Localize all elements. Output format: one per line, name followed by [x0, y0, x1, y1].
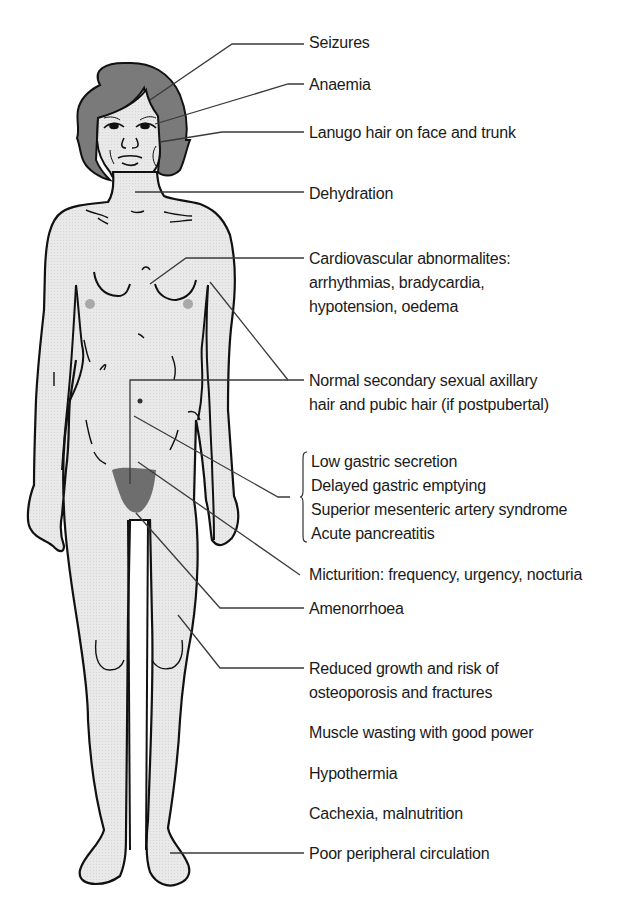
label-seizures: Seizures: [309, 31, 370, 54]
label-cardiovascular-line-2: arrhythmias, bradycardia,: [309, 271, 485, 294]
label-anaemia: Anaemia: [309, 73, 371, 96]
label-cachexia: Cachexia, malnutrition: [309, 802, 463, 825]
label-peripheral-circulation: Poor peripheral circulation: [309, 842, 489, 865]
label-muscle-wasting: Muscle wasting with good power: [309, 721, 533, 744]
label-secondary-sexual-hair-line-2: hair and pubic hair (if postpubertal): [309, 393, 549, 416]
label-lanugo: Lanugo hair on face and trunk: [309, 121, 516, 144]
gastric-group-brace-icon: [300, 451, 308, 543]
label-low-gastric-secretion: Low gastric secretion: [311, 450, 457, 473]
label-delayed-gastric-emptying: Delayed gastric emptying: [311, 474, 486, 497]
leader-reduced-growth: [178, 615, 304, 668]
label-dehydration: Dehydration: [309, 182, 393, 205]
label-acute-pancreatitis: Acute pancreatitis: [311, 522, 435, 545]
label-reduced-growth-line-2: osteoporosis and fractures: [309, 681, 492, 704]
navel: [138, 399, 143, 404]
label-hypothermia: Hypothermia: [309, 762, 398, 785]
torso: [28, 172, 238, 886]
areola-left: [85, 299, 95, 309]
label-cardiovascular-line-3: hypotension, oedema: [309, 295, 458, 318]
label-cardiovascular-line-1: Cardiovascular abnormalites:: [309, 247, 511, 270]
label-reduced-growth-line-1: Reduced growth and risk of: [309, 657, 499, 680]
label-amenorrhoea: Amenorrhoea: [309, 597, 404, 620]
label-secondary-sexual-hair-line-1: Normal secondary sexual axillary: [309, 369, 537, 392]
areola-right: [183, 299, 193, 309]
label-micturition: Micturition: frequency, urgency, nocturi…: [309, 563, 582, 586]
label-sma-syndrome: Superior mesenteric artery syndrome: [311, 498, 567, 521]
